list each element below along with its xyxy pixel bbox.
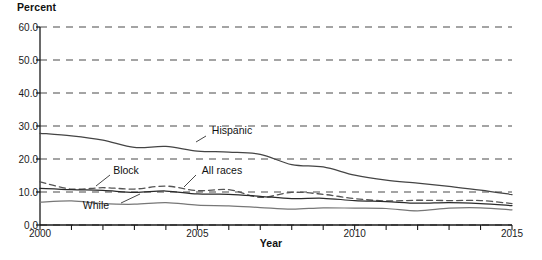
annotation-leader-all-races: [184, 175, 196, 187]
series-label-while: While: [83, 199, 109, 211]
annotation-leader-while: [121, 194, 140, 203]
series-line-hispanic: [40, 133, 512, 194]
series-label-hispanic: Hispanic: [212, 124, 252, 136]
annotation-leader-block: [96, 175, 110, 186]
annotation-leader-hispanic: [196, 136, 206, 142]
series-label-block: Block: [113, 164, 139, 176]
x-axis-title: Year: [0, 237, 542, 249]
chart-figure: Percent 0.010.020.030.040.050.060.0 2000…: [0, 0, 542, 260]
plot-area: [0, 0, 542, 260]
series-label-all-races: All races: [202, 164, 242, 176]
series-line-all-races: [40, 188, 512, 205]
